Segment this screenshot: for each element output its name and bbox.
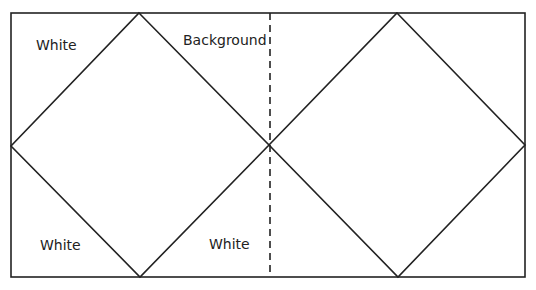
label-background: Background (183, 32, 267, 48)
label-bottom-left-white: White (40, 237, 81, 253)
label-top-left-white: White (36, 37, 77, 53)
right-diamond (269, 13, 525, 277)
label-bottom-center-white: White (209, 236, 250, 252)
